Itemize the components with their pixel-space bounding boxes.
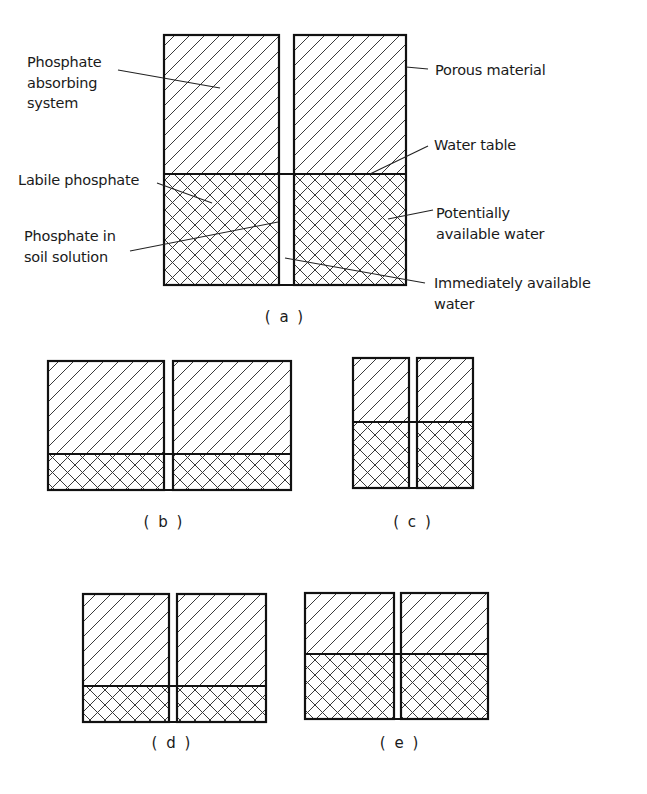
cross-hatch-region — [173, 454, 291, 490]
cross-hatch-region — [177, 686, 266, 722]
panel-c — [353, 358, 473, 488]
soil-column-right — [177, 594, 266, 722]
single-hatch-region — [48, 361, 164, 454]
leader-porous-material — [406, 67, 428, 69]
caption-c: ( c ) — [393, 513, 433, 531]
annotation-phosphate-in-soil-solution: Phosphate insoil solution — [24, 228, 116, 265]
soil-column-right — [294, 35, 406, 285]
single-hatch-region — [177, 594, 266, 686]
cross-hatch-region — [294, 174, 406, 285]
single-hatch-region — [401, 593, 488, 654]
soil-column-left — [83, 594, 169, 722]
soil-column-right — [417, 358, 473, 488]
panel-a — [164, 35, 406, 285]
cross-hatch-region — [305, 654, 394, 719]
soil-column-left — [305, 593, 394, 719]
panel-e — [305, 593, 488, 719]
caption-a: ( a ) — [265, 308, 305, 326]
cross-hatch-region — [48, 454, 164, 490]
single-hatch-region — [164, 35, 279, 174]
cross-hatch-region — [401, 654, 488, 719]
caption-e: ( e ) — [380, 734, 420, 752]
panels-layer — [48, 35, 488, 722]
annotation-potentially-available-water: Potentiallyavailable water — [436, 205, 545, 242]
panel-b — [48, 361, 291, 490]
soil-column-right — [401, 593, 488, 719]
soil-column-left — [164, 35, 279, 285]
single-hatch-region — [305, 593, 394, 654]
cross-hatch-region — [353, 422, 409, 488]
single-hatch-region — [173, 361, 291, 454]
single-hatch-region — [294, 35, 406, 174]
single-hatch-region — [353, 358, 409, 422]
single-hatch-region — [83, 594, 169, 686]
cross-hatch-region — [417, 422, 473, 488]
soil-column-left — [353, 358, 409, 488]
annotation-porous-material: Porous material — [435, 62, 546, 78]
panel-d — [83, 594, 266, 722]
soil-column-left — [48, 361, 164, 490]
annotation-phosphate-absorbing-system: Phosphateabsorbingsystem — [27, 54, 102, 111]
cross-hatch-region — [83, 686, 169, 722]
soil-column-right — [173, 361, 291, 490]
caption-b: ( b ) — [144, 513, 185, 531]
phosphate-water-analogy-figure: Phosphateabsorbingsystem Labile phosphat… — [0, 0, 647, 794]
annotation-immediately-available-water: Immediately availablewater — [434, 275, 591, 312]
cross-hatch-region — [164, 174, 279, 285]
annotation-water-table: Water table — [434, 137, 516, 153]
single-hatch-region — [417, 358, 473, 422]
caption-d: ( d ) — [152, 734, 193, 752]
annotation-labile-phosphate: Labile phosphate — [18, 172, 140, 188]
